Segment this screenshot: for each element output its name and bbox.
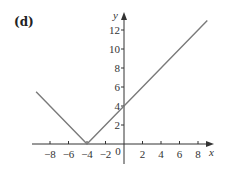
y-axis-arrow-icon — [121, 12, 127, 20]
y-tick-label: 6 — [115, 81, 121, 93]
y-tick-label: 8 — [115, 62, 121, 74]
y-tick-label: 2 — [115, 119, 121, 131]
chart: (d) xy −8−6−4−20246824681012 — [0, 0, 228, 177]
y-tick-label: 12 — [109, 24, 120, 36]
x-axis-label: x — [208, 146, 214, 158]
x-tick-label: 2 — [140, 148, 146, 160]
x-tick-label: −2 — [100, 148, 112, 160]
y-tick-label: 10 — [109, 43, 121, 55]
x-tick-label: 8 — [195, 148, 201, 160]
ticks: −8−6−4−20246824681012 — [44, 24, 201, 160]
panel-label: (d) — [14, 15, 34, 29]
y-axis-label: y — [112, 9, 118, 21]
x-tick-label: 4 — [158, 148, 164, 160]
x-tick-label: −4 — [81, 148, 93, 160]
x-tick-label: −8 — [44, 148, 56, 160]
x-tick-label: 6 — [177, 148, 183, 160]
x-tick-label: 0 — [115, 145, 121, 157]
x-tick-label: −6 — [63, 148, 75, 160]
